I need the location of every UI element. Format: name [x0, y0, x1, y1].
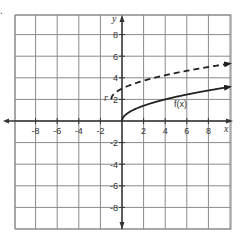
x-tick-label: -6 [53, 126, 61, 136]
y-axis-up-arrow-icon [120, 15, 125, 22]
x-axis-label: x [223, 123, 229, 134]
x-tick-label: 4 [163, 126, 168, 136]
grid [15, 15, 231, 229]
y-tick-label: -4 [110, 160, 118, 170]
plot-border [15, 15, 231, 229]
x-tick-label: -8 [32, 126, 40, 136]
y-axis-label: y [111, 13, 117, 24]
x-tick-label: 2 [141, 126, 146, 136]
y-tick-label: 2 [113, 95, 118, 105]
problem-marker: . [0, 5, 3, 16]
x-tick-label: 8 [206, 126, 211, 136]
y-tick-label: 4 [113, 73, 118, 83]
x-axis-left-arrow-icon [3, 119, 9, 124]
x-tick-label: -2 [96, 126, 104, 136]
x-tick-label: 6 [184, 126, 189, 136]
y-tick-label: 6 [113, 52, 118, 62]
y-tick-label: 8 [113, 30, 118, 40]
y-axis-down-arrow-icon [120, 222, 125, 229]
coordinate-plane: . -8-6-4-224688642-2-4-6-8 x y f(x) r [0, 0, 240, 239]
y-tick-label: -2 [110, 138, 118, 148]
y-tick-label: -8 [110, 203, 118, 213]
dashed-curve-g [111, 64, 230, 100]
curves [111, 64, 230, 121]
axes [3, 15, 233, 229]
y-tick-label: -6 [110, 181, 118, 191]
stray-mark: r [104, 92, 108, 103]
x-tick-label: -4 [75, 126, 83, 136]
f-of-x-label: f(x) [174, 99, 187, 109]
